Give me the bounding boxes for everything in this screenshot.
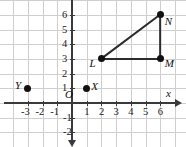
x-axis-arrow-icon [175, 99, 182, 107]
x-tick-label: 1 [84, 107, 89, 118]
x-axis [4, 102, 176, 104]
gridline-horizontal [0, 132, 186, 133]
point-x [83, 85, 90, 92]
point-label-x: X [91, 81, 98, 92]
gridline-horizontal [0, 118, 186, 119]
x-tick-label: -2 [36, 107, 45, 118]
point-n [157, 11, 164, 18]
y-tick-mark [70, 74, 75, 75]
point-m [157, 55, 164, 62]
x-tick-label: 2 [99, 107, 104, 118]
origin-label: O [65, 89, 73, 100]
x-tick-label: -3 [21, 107, 30, 118]
coordinate-plane: -3-2-1123456654321-1-2OxLMNXY [0, 0, 186, 147]
x-tick-label: 4 [128, 107, 133, 118]
x-axis-label: x [166, 88, 171, 99]
gridline-horizontal [0, 44, 186, 45]
x-tick-label: -1 [50, 107, 59, 118]
segment-lm [101, 58, 160, 60]
gridline-horizontal [0, 74, 186, 75]
y-tick-mark [70, 15, 75, 16]
gridline-horizontal [0, 30, 186, 31]
segment-mn [159, 15, 161, 59]
y-tick-label: 2 [62, 69, 67, 80]
y-tick-label: 6 [62, 10, 67, 21]
y-tick-label: 4 [62, 39, 67, 50]
y-tick-label: 5 [62, 25, 67, 36]
y-tick-label: -2 [63, 127, 72, 138]
y-axis-arrow-icon [68, 140, 76, 147]
x-tick-label: 3 [114, 107, 119, 118]
x-tick-label: 6 [158, 107, 163, 118]
y-tick-mark [70, 30, 75, 31]
point-label-y: Y [15, 80, 21, 91]
x-tick-label: 5 [143, 107, 148, 118]
y-tick-label: -1 [63, 113, 72, 124]
y-tick-mark [70, 44, 75, 45]
point-l [98, 55, 105, 62]
point-label-m: M [165, 58, 174, 69]
point-label-l: L [89, 58, 95, 69]
y-tick-label: 3 [62, 54, 67, 65]
gridline-horizontal [0, 0, 186, 1]
y-tick-mark [70, 59, 75, 60]
point-label-n: N [165, 16, 172, 27]
point-y [24, 85, 31, 92]
